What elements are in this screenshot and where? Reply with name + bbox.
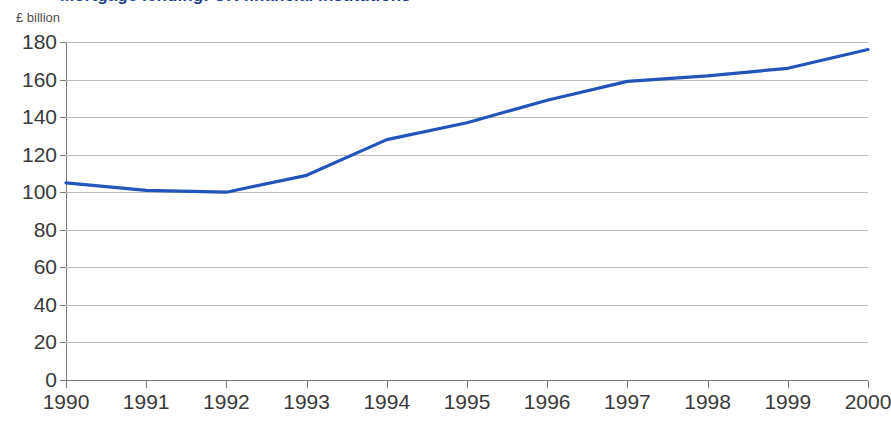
chart-title-strip: Mortgage lending: UK financial instituti… bbox=[0, 0, 890, 9]
chart-title: Mortgage lending: UK financial instituti… bbox=[60, 0, 411, 6]
x-tick-label-1997: 1997 bbox=[604, 390, 651, 414]
gridline-y-120 bbox=[66, 155, 868, 156]
y-tick-label-60: 60 bbox=[5, 255, 57, 279]
y-tick-label-140: 140 bbox=[5, 105, 57, 129]
y-tick-160 bbox=[60, 80, 66, 81]
y-tick-label-100: 100 bbox=[5, 180, 57, 204]
y-tick-label-80: 80 bbox=[5, 218, 57, 242]
x-tick-label-1995: 1995 bbox=[444, 390, 491, 414]
x-tick-label-1990: 1990 bbox=[43, 390, 90, 414]
y-tick-140 bbox=[60, 117, 66, 118]
x-tick-1996 bbox=[547, 381, 548, 388]
gridline-y-160 bbox=[66, 80, 868, 81]
gridline-y-40 bbox=[66, 305, 868, 306]
x-tick-1994 bbox=[387, 381, 388, 388]
x-tick-1993 bbox=[307, 381, 308, 388]
gridline-y-60 bbox=[66, 267, 868, 268]
x-tick-1995 bbox=[467, 381, 468, 388]
x-tick-2000 bbox=[868, 381, 869, 388]
x-tick-label-1996: 1996 bbox=[524, 390, 571, 414]
x-tick-1991 bbox=[146, 381, 147, 388]
y-tick-80 bbox=[60, 230, 66, 231]
y-tick-label-120: 120 bbox=[5, 143, 57, 167]
gridline-y-100 bbox=[66, 192, 868, 193]
x-tick-1999 bbox=[788, 381, 789, 388]
x-tick-label-1999: 1999 bbox=[764, 390, 811, 414]
x-tick-1997 bbox=[627, 381, 628, 388]
y-axis-labels: 020406080100120140160180 bbox=[0, 0, 57, 422]
x-tick-label-1994: 1994 bbox=[363, 390, 410, 414]
gridline-y-140 bbox=[66, 117, 868, 118]
y-tick-60 bbox=[60, 267, 66, 268]
x-tick-label-1993: 1993 bbox=[283, 390, 330, 414]
y-tick-label-20: 20 bbox=[5, 330, 57, 354]
y-tick-label-40: 40 bbox=[5, 293, 57, 317]
x-tick-label-1992: 1992 bbox=[203, 390, 250, 414]
plot-area bbox=[66, 42, 868, 380]
x-tick-1990 bbox=[66, 381, 67, 388]
y-tick-label-0: 0 bbox=[5, 368, 57, 392]
gridline-y-180 bbox=[66, 42, 868, 43]
x-tick-1992 bbox=[226, 381, 227, 388]
y-tick-20 bbox=[60, 342, 66, 343]
x-tick-1998 bbox=[708, 381, 709, 388]
y-tick-120 bbox=[60, 155, 66, 156]
x-tick-label-1991: 1991 bbox=[123, 390, 170, 414]
gridline-y-20 bbox=[66, 342, 868, 343]
gridline-y-80 bbox=[66, 230, 868, 231]
y-tick-label-180: 180 bbox=[5, 30, 57, 54]
y-tick-40 bbox=[60, 305, 66, 306]
x-tick-label-1998: 1998 bbox=[684, 390, 731, 414]
y-tick-100 bbox=[60, 192, 66, 193]
y-tick-180 bbox=[60, 42, 66, 43]
y-tick-label-160: 160 bbox=[5, 68, 57, 92]
x-tick-label-2000: 2000 bbox=[845, 390, 891, 414]
